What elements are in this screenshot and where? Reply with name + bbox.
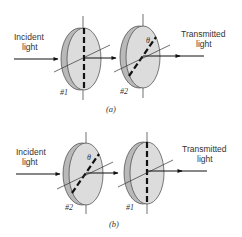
caption-b: (b) bbox=[109, 219, 119, 229]
incident-light-label-line1: Incident bbox=[16, 147, 46, 157]
theta-label: θ bbox=[146, 36, 150, 45]
transmitted-light-label-line2: light bbox=[196, 39, 212, 49]
incident-light-label-line1: Incident bbox=[14, 32, 44, 42]
transmitted-light-label-line2: light bbox=[197, 154, 213, 164]
incident-light-label-line2: light bbox=[22, 42, 38, 52]
panel-b: Incident light θ #2 #1 Transmitted light… bbox=[16, 132, 227, 229]
polarizer-label: #1 bbox=[126, 203, 134, 212]
polarizer-label: #2 bbox=[65, 203, 73, 212]
polarizer-label: #1 bbox=[60, 88, 68, 97]
polarizer-1: #1 bbox=[118, 132, 173, 214]
transmitted-light-label-line1: Transmitted bbox=[181, 29, 226, 39]
caption-a: (a) bbox=[106, 104, 116, 114]
transmitted-light-label-line1: Transmitted bbox=[182, 144, 227, 154]
incident-light-label-line2: light bbox=[22, 157, 38, 167]
theta-label: θ bbox=[87, 153, 91, 162]
panel-a: Incident light #1 θ #2 Transmitted bbox=[14, 14, 226, 114]
polarizer-diagram: Incident light #1 θ #2 Transmitted bbox=[0, 0, 242, 237]
polarizer-label: #2 bbox=[120, 87, 128, 96]
